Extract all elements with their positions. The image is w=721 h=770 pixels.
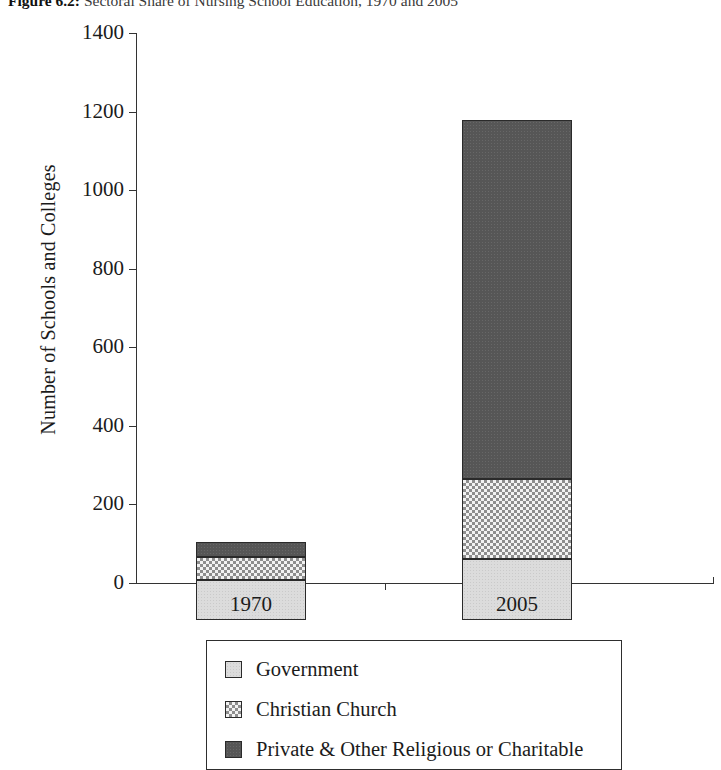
chart-plot-area: Number of Schools and Colleges 1400 1200… [0, 0, 721, 620]
y-tick-label-1400: 1400 [4, 22, 124, 43]
legend-label-government: Government [256, 658, 358, 680]
x-tick-mid [385, 583, 386, 590]
y-tick-label-200: 200 [4, 493, 124, 514]
legend-swatch-government-icon [225, 661, 242, 678]
y-tick-label-600: 600 [4, 336, 124, 357]
bar-segment-2005-private-other [462, 120, 572, 479]
y-tick-label-0: 0 [4, 572, 124, 593]
legend-label-christian-church: Christian Church [256, 698, 397, 720]
y-tick-label-400: 400 [4, 415, 124, 436]
y-tick-label-1000: 1000 [4, 179, 124, 200]
y-tick-400 [129, 426, 136, 427]
legend-item-christian-church: Christian Church [225, 697, 397, 721]
bar-stack-1970 [196, 37, 306, 620]
y-tick-1200 [129, 112, 136, 113]
y-tick-600 [129, 347, 136, 348]
y-tick-label-800: 800 [4, 258, 124, 279]
legend-swatch-private-other-icon [225, 741, 242, 758]
bar-stack-2005 [462, 37, 572, 620]
legend-item-government: Government [225, 657, 358, 681]
legend-item-private-other: Private & Other Religious or Charitable [225, 737, 583, 761]
bar-segment-1970-private-other [196, 542, 306, 557]
y-tick-label-1200: 1200 [4, 101, 124, 122]
legend-swatch-christian-church-icon [225, 701, 242, 718]
y-axis-title: Number of Schools and Colleges [37, 100, 60, 500]
chart-legend: Government Christian Church Private & Ot… [206, 640, 622, 770]
legend-label-private-other: Private & Other Religious or Charitable [256, 738, 583, 760]
bar-segment-1970-christian-church [196, 557, 306, 580]
y-tick-1400 [129, 33, 136, 34]
y-tick-0 [129, 583, 136, 584]
y-axis-line [136, 33, 137, 584]
x-axis-end-cap [713, 577, 714, 584]
x-tick-label-2005: 2005 [447, 592, 587, 616]
bar-segment-2005-christian-church [462, 479, 572, 559]
y-tick-1000 [129, 190, 136, 191]
y-tick-200 [129, 504, 136, 505]
x-tick-label-1970: 1970 [181, 592, 321, 616]
y-tick-800 [129, 269, 136, 270]
